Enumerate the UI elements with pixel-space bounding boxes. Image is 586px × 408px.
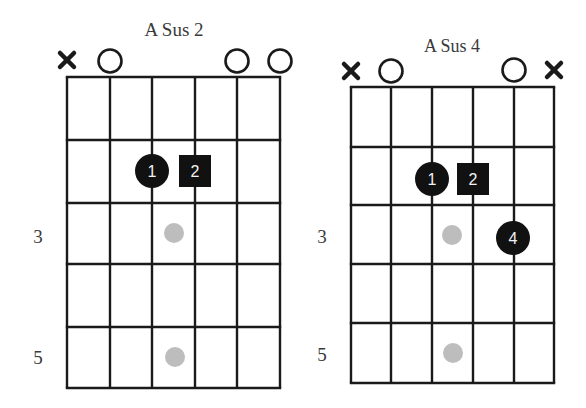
fret-inlay-dot xyxy=(443,343,463,363)
position-markers xyxy=(442,225,463,363)
finger-number: 2 xyxy=(469,171,478,188)
chord-title: A Sus 2 xyxy=(144,19,203,40)
open-muted-markers xyxy=(60,50,292,73)
muted-string-icon xyxy=(344,64,358,78)
finger-marker-1: 1 xyxy=(415,162,449,196)
chord-title: A Sus 4 xyxy=(424,36,480,56)
fret-numbers: 35 xyxy=(33,226,43,368)
open-muted-markers xyxy=(344,59,561,83)
open-string-icon xyxy=(99,50,122,73)
chord-diagram-a-sus-2: A Sus 2 12 35 xyxy=(33,19,291,388)
finger-number: 1 xyxy=(148,163,157,180)
finger-positions: 12 xyxy=(135,154,211,188)
fret-inlay-dot xyxy=(165,347,185,367)
finger-marker-2: 2 xyxy=(457,163,489,195)
fret-number-label: 5 xyxy=(317,344,327,365)
chord-chart: A Sus 2 12 35 A Sus 4 124 35 xyxy=(0,0,586,408)
muted-string-icon xyxy=(60,53,74,67)
fret-number-label: 3 xyxy=(317,226,327,247)
finger-marker-1: 1 xyxy=(135,154,169,188)
chord-diagram-a-sus-4: A Sus 4 124 35 xyxy=(317,36,561,383)
open-string-icon xyxy=(226,50,249,73)
finger-number: 4 xyxy=(509,230,518,247)
open-string-icon xyxy=(269,50,292,73)
finger-number: 1 xyxy=(428,171,437,188)
open-string-icon xyxy=(380,60,403,83)
fret-numbers: 35 xyxy=(317,226,327,365)
finger-marker-2: 2 xyxy=(179,155,211,187)
open-string-icon xyxy=(503,59,526,82)
fret-inlay-dot xyxy=(164,223,184,243)
fret-number-label: 3 xyxy=(33,226,43,247)
position-markers xyxy=(164,223,185,367)
muted-string-icon xyxy=(547,63,561,77)
fret-inlay-dot xyxy=(442,225,462,245)
fret-number-label: 5 xyxy=(33,347,43,368)
finger-number: 2 xyxy=(191,163,200,180)
finger-marker-4: 4 xyxy=(496,221,530,255)
